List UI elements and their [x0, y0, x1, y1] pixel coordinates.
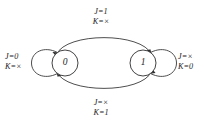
transition-label-1-to-0-j: J=× — [74, 98, 128, 108]
transition-label-0-to-1-k: K=× — [74, 17, 128, 27]
state-label-1: 1 — [133, 58, 153, 68]
self-loop-label-state-0: J=0 K=× — [5, 52, 31, 71]
state-label-0: 0 — [55, 58, 75, 68]
transition-label-0-to-1: J=1 K=× — [74, 7, 128, 26]
self-loop-label-state-1-k: K=0 — [178, 62, 204, 72]
self-loop-label-state-1-j: J=× — [178, 52, 204, 62]
self-loop-label-state-0-j: J=0 — [5, 52, 31, 62]
transition-label-0-to-1-j: J=1 — [74, 7, 128, 17]
self-loop-label-state-1: J=× K=0 — [178, 52, 204, 71]
self-loop-label-state-0-k: K=× — [5, 62, 31, 72]
transition-label-1-to-0: J=× K=1 — [74, 98, 128, 117]
state-diagram: 0 1 J=1 K=× J=× K=1 J=0 K=× J=× K=0 — [0, 0, 204, 126]
transition-label-1-to-0-k: K=1 — [74, 108, 128, 118]
